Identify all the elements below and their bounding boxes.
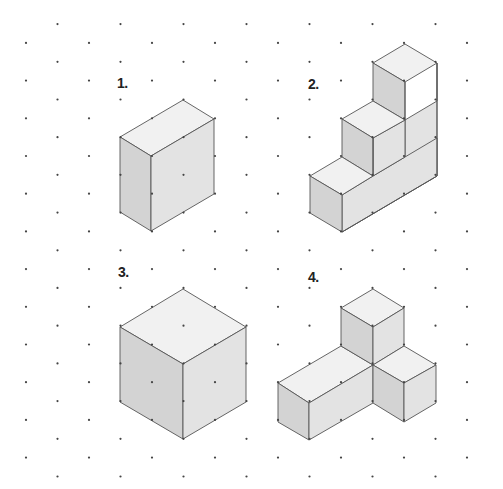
grid-dot <box>151 42 153 44</box>
grid-dot <box>245 249 247 251</box>
grid-dot <box>340 381 342 383</box>
grid-dot <box>466 268 468 270</box>
grid-dot <box>308 174 310 176</box>
grid-dot <box>182 287 184 289</box>
grid-dot <box>88 80 90 82</box>
grid-dot <box>151 457 153 459</box>
grid-dot <box>214 343 216 345</box>
grid-dot <box>466 306 468 308</box>
grid-dot <box>466 155 468 157</box>
grid-dot <box>56 249 58 251</box>
grid-dot <box>119 325 121 327</box>
grid-dot <box>403 117 405 119</box>
grid-dot <box>277 306 279 308</box>
grid-dot <box>371 287 373 289</box>
grid-dot <box>245 174 247 176</box>
grid-dot <box>371 325 373 327</box>
grid-dot <box>340 268 342 270</box>
grid-dot <box>308 438 310 440</box>
grid-dot <box>371 61 373 63</box>
drawing-surface <box>0 0 503 489</box>
grid-dot <box>466 381 468 383</box>
grid-dot <box>151 306 153 308</box>
grid-dot <box>182 400 184 402</box>
grid-dot <box>88 419 90 421</box>
grid-dot <box>277 193 279 195</box>
grid-dot <box>119 98 121 100</box>
grid-dot <box>308 325 310 327</box>
grid-dot <box>56 98 58 100</box>
grid-dot <box>434 400 436 402</box>
grid-dot <box>25 155 27 157</box>
grid-dot <box>25 343 27 345</box>
grid-dot <box>25 419 27 421</box>
grid-dot <box>56 287 58 289</box>
grid-dot <box>371 174 373 176</box>
grid-dot <box>434 249 436 251</box>
grid-dot <box>56 400 58 402</box>
grid-dot <box>403 306 405 308</box>
grid-dot <box>25 381 27 383</box>
grid-dot <box>308 362 310 364</box>
grid-dot <box>214 42 216 44</box>
grid-dot <box>403 381 405 383</box>
grid-dot <box>119 438 121 440</box>
grid-dot <box>340 155 342 157</box>
grid-dot <box>182 212 184 214</box>
grid-dot <box>119 475 121 477</box>
grid-dot <box>434 287 436 289</box>
grid-dot <box>277 155 279 157</box>
figure-1 <box>120 100 214 231</box>
grid-dot <box>371 249 373 251</box>
grid-dot <box>308 98 310 100</box>
grid-dot <box>88 268 90 270</box>
grid-dot <box>466 117 468 119</box>
grid-dot <box>371 400 373 402</box>
grid-dot <box>340 230 342 232</box>
grid-dot <box>88 306 90 308</box>
grid-dot <box>56 325 58 327</box>
grid-dot <box>245 400 247 402</box>
grid-dot <box>56 174 58 176</box>
grid-dot <box>25 230 27 232</box>
grid-dot <box>434 212 436 214</box>
grid-dot <box>56 212 58 214</box>
grid-dot <box>277 42 279 44</box>
grid-dot <box>277 419 279 421</box>
grid-dot <box>88 381 90 383</box>
grid-dot <box>119 136 121 138</box>
figure-1-label: 1. <box>117 76 128 90</box>
grid-dot <box>466 230 468 232</box>
grid-dot <box>403 230 405 232</box>
grid-dot <box>245 136 247 138</box>
grid-dot <box>245 475 247 477</box>
grid-dot <box>466 80 468 82</box>
grid-dot <box>88 117 90 119</box>
grid-dot <box>434 325 436 327</box>
grid-dot <box>88 230 90 232</box>
grid-dot <box>403 155 405 157</box>
grid-dot <box>466 42 468 44</box>
grid-dot <box>308 249 310 251</box>
grid-dot <box>214 80 216 82</box>
grid-dot <box>88 42 90 44</box>
grid-dot <box>434 98 436 100</box>
grid-dot <box>434 136 436 138</box>
grid-dot <box>434 23 436 25</box>
grid-dot <box>182 475 184 477</box>
grid-dot <box>245 438 247 440</box>
grid-dot <box>403 268 405 270</box>
grid-dot <box>371 98 373 100</box>
grid-dot <box>308 23 310 25</box>
grid-dot <box>403 343 405 345</box>
grid-dot <box>245 61 247 63</box>
grid-dot <box>434 174 436 176</box>
grid-dot <box>214 268 216 270</box>
grid-dot <box>340 42 342 44</box>
grid-dot <box>434 438 436 440</box>
grid-dot <box>88 343 90 345</box>
grid-dot <box>25 306 27 308</box>
grid-dot <box>277 80 279 82</box>
grid-dot <box>56 475 58 477</box>
grid-dot <box>308 212 310 214</box>
